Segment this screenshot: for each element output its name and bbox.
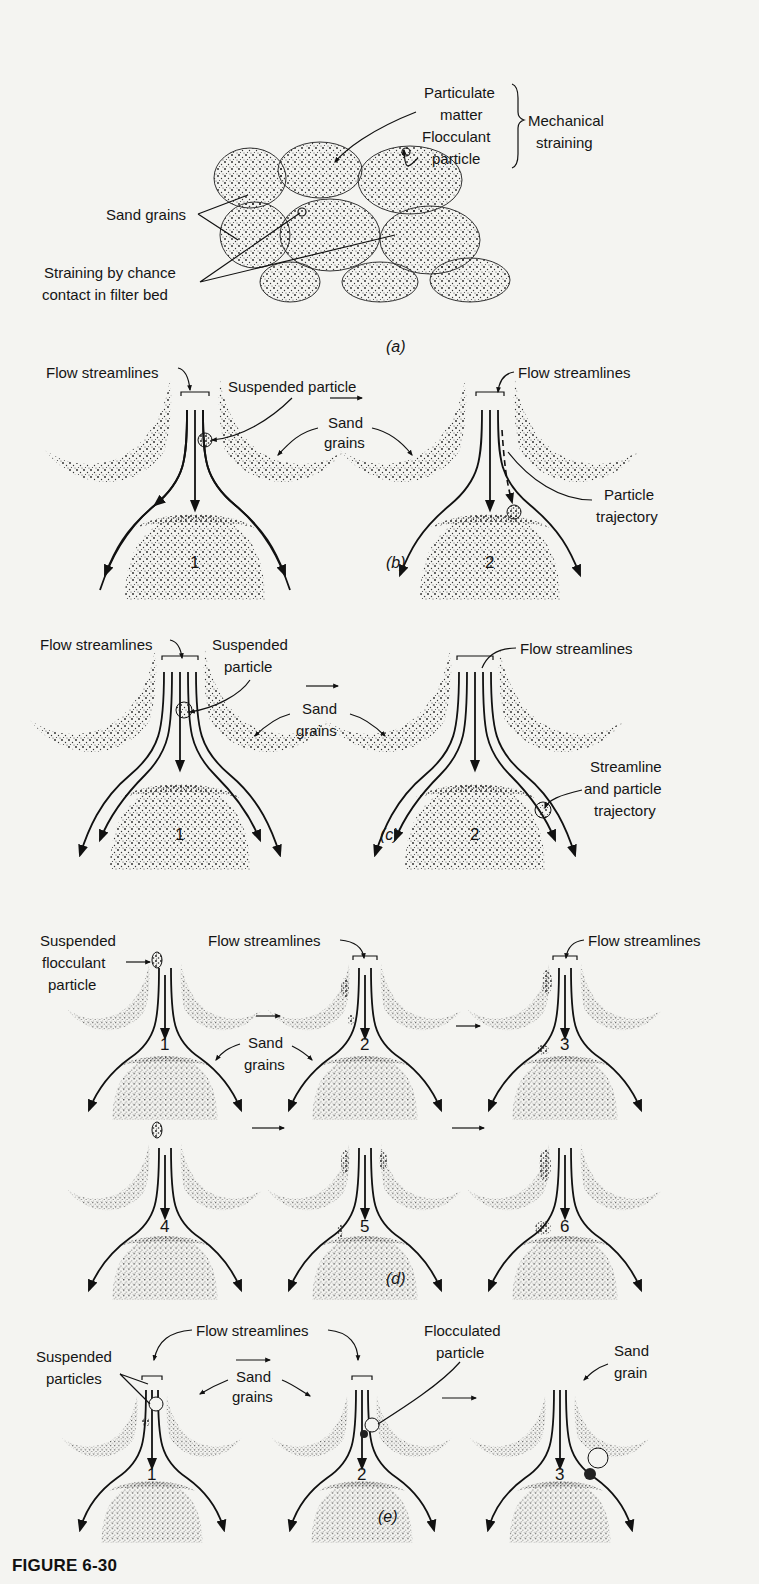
- label-flow-streamlines-right: Flow streamlines: [588, 932, 701, 949]
- label-suspended-particle: Suspended particle: [228, 378, 356, 395]
- caption-e: (e): [378, 1508, 398, 1525]
- cell-number: 1: [147, 1465, 156, 1484]
- cell-number: 2: [357, 1465, 366, 1484]
- label-suspended-particle-2: particle: [224, 658, 272, 675]
- label-flow-streamlines: Flow streamlines: [196, 1322, 309, 1339]
- cell-number: 6: [560, 1217, 569, 1236]
- label-sand-grains: Sand grains: [106, 206, 186, 223]
- figure-label: FIGURE 6-30: [12, 1556, 117, 1576]
- label-suspended-flocculant: Suspended: [40, 932, 116, 949]
- label-flow-streamlines-mid: Flow streamlines: [208, 932, 321, 949]
- label-sand-grains: Sand: [328, 414, 363, 431]
- caption-b: (b): [386, 554, 406, 571]
- label-mechanical-straining: Mechanical: [528, 112, 604, 129]
- label-suspended-particle: Suspended: [212, 636, 288, 653]
- label-sand-grain-2: grain: [614, 1364, 647, 1381]
- label-particle-trajectory-2: trajectory: [596, 508, 658, 525]
- label-straining-chance-2: contact in filter bed: [42, 286, 168, 303]
- brace-icon: [512, 84, 524, 168]
- cell-number: 2: [360, 1035, 369, 1054]
- leader-line: [282, 1380, 310, 1396]
- label-flocculant-particle: Flocculant: [422, 128, 491, 145]
- figure-canvas: Particulate matter Flocculant particle M…: [0, 0, 759, 1584]
- label-particulate-matter: Particulate: [424, 84, 495, 101]
- label-flow-streamlines-left: Flow streamlines: [46, 364, 159, 381]
- leader-line: [278, 428, 318, 455]
- cell-number: 2: [470, 825, 479, 844]
- leader-line: [566, 940, 584, 958]
- label-suspended-flocculant-2: flocculant: [42, 954, 106, 971]
- label-straining-chance: Straining by chance: [44, 264, 176, 281]
- cell-number: 4: [160, 1217, 169, 1236]
- label-particulate-matter-2: matter: [440, 106, 483, 123]
- label-flocculated-particle-2: particle: [436, 1344, 484, 1361]
- caption-a: (a): [386, 338, 406, 355]
- label-sand-grains-2: grains: [244, 1056, 285, 1073]
- label-flow-streamlines-right: Flow streamlines: [518, 364, 631, 381]
- label-flow-streamlines-right: Flow streamlines: [520, 640, 633, 657]
- label-sand-grains: Sand: [236, 1368, 271, 1385]
- label-sand-grains: Sand: [302, 700, 337, 717]
- panel-b: 1 2 Flow streamlines Suspended particle …: [45, 364, 658, 600]
- leader-line: [498, 372, 514, 392]
- label-sand-grain: Sand: [614, 1342, 649, 1359]
- leader-line: [545, 790, 582, 808]
- cell-number: 2: [485, 553, 494, 572]
- leader-line: [340, 940, 364, 958]
- label-flow-streamlines-left: Flow streamlines: [40, 636, 153, 653]
- cell-number: 3: [560, 1035, 569, 1054]
- leader-line: [170, 640, 182, 658]
- leader-line: [120, 1374, 150, 1404]
- cell-number: 1: [190, 553, 199, 572]
- leader-line: [292, 1046, 312, 1060]
- panel-d: 1 2 3: [40, 932, 701, 1300]
- leader-line: [378, 1362, 460, 1424]
- leader-line: [216, 1044, 240, 1060]
- label-sand-grains-2: grains: [232, 1388, 273, 1405]
- label-streamline-trajectory: Streamline: [590, 758, 662, 775]
- label-flocculant-particle-2: particle: [432, 150, 480, 167]
- leader-line: [584, 1364, 608, 1380]
- leader-line: [178, 368, 190, 390]
- label-sand-grains-2: grains: [296, 722, 337, 739]
- caption-d: (d): [386, 1270, 406, 1287]
- leader-line: [328, 1330, 358, 1360]
- panel-e: 1 2 3 Flow streamlines Suspended par: [36, 1322, 650, 1543]
- label-particle-trajectory: Particle: [604, 486, 654, 503]
- panel-a: Particulate matter Flocculant particle M…: [42, 84, 604, 355]
- label-suspended-particles-2: particles: [46, 1370, 102, 1387]
- caption-c: (c): [380, 826, 399, 843]
- label-suspended-particles: Suspended: [36, 1348, 112, 1365]
- label-sand-grains: Sand: [248, 1034, 283, 1051]
- label-streamline-trajectory-3: trajectory: [594, 802, 656, 819]
- leader-line: [200, 1380, 228, 1394]
- cell-number: 1: [160, 1035, 169, 1054]
- cell-number: 3: [555, 1465, 564, 1484]
- label-suspended-flocculant-3: particle: [48, 976, 96, 993]
- panel-c: 1 2 Flow streamlines Suspended particle …: [30, 636, 662, 870]
- cell-number: 1: [175, 825, 184, 844]
- leader-line: [372, 428, 412, 455]
- label-flocculated-particle: Flocculated: [424, 1322, 501, 1339]
- leader-line: [350, 714, 385, 736]
- cell-number: 5: [360, 1217, 369, 1236]
- label-mechanical-straining-2: straining: [536, 134, 593, 151]
- label-streamline-trajectory-2: and particle: [584, 780, 662, 797]
- label-sand-grains-2: grains: [324, 434, 365, 451]
- leader-line: [154, 1330, 192, 1360]
